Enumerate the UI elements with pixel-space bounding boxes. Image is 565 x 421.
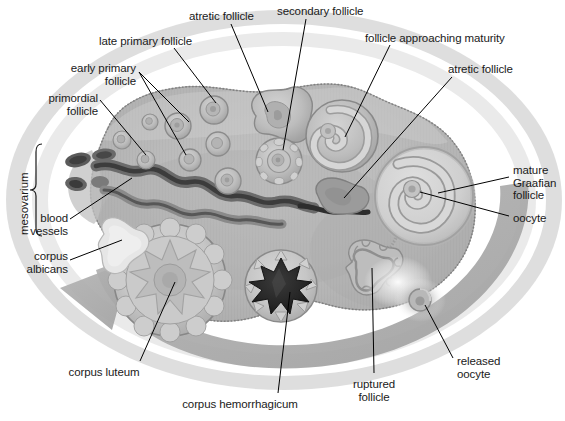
label-corpus-luteum: corpus luteum (57, 366, 151, 379)
label-mesovarium: mesovarium (18, 172, 30, 235)
label-atretic-follicle-right: atretic follicle (448, 63, 544, 76)
label-primordial-follicle: primordial follicle (14, 92, 98, 117)
released-oocyte (394, 278, 446, 322)
secondary-follicle (255, 138, 302, 185)
label-oocyte: oocyte (513, 212, 565, 225)
label-atretic-follicle-top: atretic follicle (189, 10, 281, 23)
label-mature-graafian-follicle: mature Graafian follicle (513, 164, 565, 202)
label-ruptured-follicle: ruptured follicle (337, 378, 411, 403)
page-edge-artifact (0, 409, 565, 421)
label-corpus-albicans: corpus albicans (8, 250, 68, 275)
label-follicle-approaching-maturity: follicle approaching maturity (365, 32, 557, 45)
corpus-hemorrhagicum (245, 250, 317, 322)
diagram-canvas: primordial follicle early primary follic… (0, 0, 565, 421)
label-secondary-follicle: secondary follicle (277, 5, 393, 18)
label-blood-vessels: blood vessels (8, 212, 68, 237)
label-early-primary-follicle: early primary follicle (52, 62, 136, 87)
label-released-oocyte: released oocyte (457, 355, 527, 380)
label-late-primary-follicle: late primary follicle (99, 35, 231, 48)
follicle-approaching-maturity (306, 100, 378, 172)
